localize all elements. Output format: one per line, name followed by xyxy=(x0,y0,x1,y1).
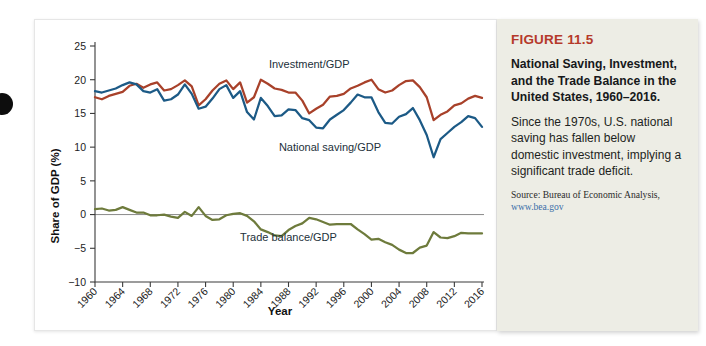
svg-text:1996: 1996 xyxy=(323,285,348,310)
svg-text:1964: 1964 xyxy=(102,285,127,310)
line-chart: −10−50510152025 196019641968197219761980… xyxy=(35,20,498,332)
svg-text:2000: 2000 xyxy=(351,285,376,310)
figure-description: Since the 1970s, U.S. national saving ha… xyxy=(511,114,684,180)
svg-text:5: 5 xyxy=(80,175,86,187)
page-binding-mark xyxy=(0,93,13,115)
series-label: Investment/GDP xyxy=(269,58,350,70)
svg-text:2004: 2004 xyxy=(378,285,403,310)
svg-text:1960: 1960 xyxy=(74,285,99,310)
svg-text:20: 20 xyxy=(74,74,86,86)
svg-text:1972: 1972 xyxy=(157,285,182,310)
data-series-group xyxy=(95,80,482,253)
svg-text:1968: 1968 xyxy=(130,285,155,310)
svg-text:10: 10 xyxy=(74,141,86,153)
series-line xyxy=(95,80,482,120)
svg-text:1976: 1976 xyxy=(185,285,210,310)
figure-source: Source: Bureau of Economic Analysis, xyxy=(511,189,684,202)
figure-root: −10−50510152025 196019641968197219761980… xyxy=(0,0,706,346)
svg-text:1980: 1980 xyxy=(213,285,238,310)
svg-text:2016: 2016 xyxy=(461,285,486,310)
series-label: Trade balance/GDP xyxy=(240,231,337,243)
figure-title: National Saving, Investment, and the Tra… xyxy=(511,56,684,106)
y-axis-ticks: −10−50510152025 xyxy=(68,40,95,288)
chart-card: −10−50510152025 196019641968197219761980… xyxy=(34,19,497,331)
figure-caption-panel: FIGURE 11.5 National Saving, Investment,… xyxy=(497,19,698,331)
figure-source-url-link[interactable]: www.bea.gov xyxy=(511,201,684,214)
svg-text:−5: −5 xyxy=(74,242,86,254)
svg-text:1992: 1992 xyxy=(296,285,321,310)
svg-text:2008: 2008 xyxy=(406,285,431,310)
svg-text:2012: 2012 xyxy=(434,285,459,310)
figure-number: FIGURE 11.5 xyxy=(511,32,684,47)
svg-text:25: 25 xyxy=(74,40,86,52)
svg-text:15: 15 xyxy=(74,107,86,119)
svg-text:0: 0 xyxy=(80,208,86,220)
x-axis-title: Year xyxy=(268,305,293,317)
series-label: National saving/GDP xyxy=(279,141,381,153)
svg-text:−10: −10 xyxy=(68,276,86,288)
svg-text:1984: 1984 xyxy=(240,285,265,310)
y-axis-title: Share of GDP (%) xyxy=(49,148,61,243)
